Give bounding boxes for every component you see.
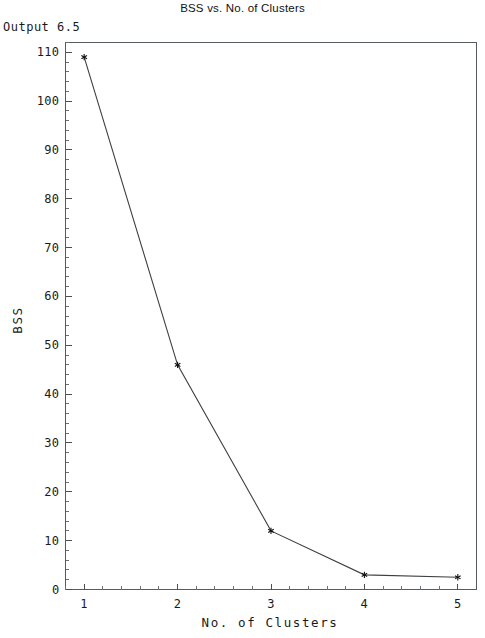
data-point-marker [81, 54, 87, 60]
line-chart-svg: 0102030405060708090100110 12345 No. of C… [0, 0, 485, 638]
y-axis-tick-labels: 0102030405060708090100110 [37, 45, 60, 596]
y-tick-label: 10 [44, 534, 59, 548]
plot-area: 0102030405060708090100110 12345 No. of C… [0, 0, 485, 638]
y-tick-label: 20 [44, 485, 59, 499]
y-tick-label: 100 [37, 94, 60, 108]
x-axis-tick-labels: 12345 [80, 597, 461, 611]
y-tick-label: 40 [44, 387, 59, 401]
y-tick-label: 80 [44, 192, 59, 206]
y-tick-label: 30 [44, 436, 59, 450]
x-tick-label: 3 [267, 597, 275, 611]
y-tick-label: 50 [44, 338, 59, 352]
y-tick-label: 60 [44, 289, 59, 303]
y-axis-ticks [66, 43, 72, 590]
x-axis-title: No. of Clusters [202, 615, 339, 630]
data-point-marker [175, 362, 181, 368]
plot-frame [66, 43, 477, 590]
chart-page: BSS vs. No. of Clusters Output 6.5 01020… [0, 0, 485, 638]
data-point-markers [81, 54, 460, 581]
x-tick-label: 4 [361, 597, 369, 611]
y-tick-label: 90 [44, 143, 59, 157]
data-point-marker [268, 528, 274, 534]
data-series-bss [84, 57, 458, 577]
y-tick-label: 0 [52, 583, 60, 597]
x-axis-ticks [66, 584, 458, 590]
y-tick-label: 110 [37, 45, 60, 59]
x-tick-label: 5 [454, 597, 462, 611]
x-tick-label: 2 [174, 597, 182, 611]
y-axis-title: BSS [10, 306, 25, 333]
y-tick-label: 70 [44, 241, 59, 255]
x-tick-label: 1 [80, 597, 88, 611]
